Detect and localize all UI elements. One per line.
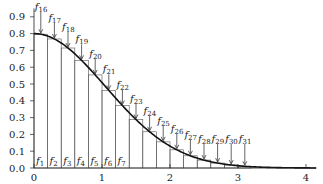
y-tick-label: 0.0 [9, 163, 25, 174]
y-tick-label: 0.2 [9, 129, 25, 140]
x-tick-label: 4 [303, 172, 309, 183]
arrow-label: f31 [238, 133, 252, 146]
x-tick-label: 1 [99, 172, 105, 183]
y-tick-label: 0.3 [9, 112, 25, 123]
arrow-label: f19 [75, 33, 89, 46]
arrow-label: f18 [61, 21, 75, 34]
y-tick-label: 0.4 [9, 95, 25, 106]
arrow-label: f29 [211, 133, 225, 146]
bar-label: f4 [76, 155, 86, 168]
arrow-label: f17 [47, 12, 61, 25]
bar [129, 120, 143, 168]
y-tick-label: 0.6 [9, 62, 25, 73]
bar-base-labels: f1f2f3f4f5f6f7 [35, 155, 126, 168]
arrow-label: f28 [197, 133, 211, 146]
y-tick-label: 0.5 [9, 79, 25, 90]
x-tick-label: 2 [167, 172, 173, 183]
curve-line [34, 34, 316, 168]
arrow-label: f27 [183, 129, 197, 142]
bar [48, 39, 62, 168]
axes: 012340.00.10.20.30.40.50.60.70.80.9 [9, 8, 316, 183]
chart-figure: f16f17f18f19f20f21f22f23f24f25f26f27f28f… [0, 0, 323, 184]
y-tick-label: 0.8 [9, 28, 25, 39]
bar-label: f1 [35, 155, 44, 168]
arrow-label: f21 [102, 63, 116, 76]
bar-label: f5 [89, 155, 98, 168]
bar-label: f6 [103, 155, 113, 168]
arrow-label: f16 [34, 1, 48, 14]
bar-label: f2 [49, 155, 58, 168]
arrow-label: f24 [143, 105, 157, 118]
bar-label: f3 [62, 155, 71, 168]
y-tick-label: 0.1 [9, 146, 25, 157]
x-tick-label: 0 [31, 172, 37, 183]
arrow-label: f23 [129, 93, 143, 106]
x-tick-label: 3 [235, 172, 241, 183]
y-tick-label: 0.9 [9, 11, 25, 22]
riemann-bars [34, 34, 252, 168]
arrow-label: f25 [156, 115, 170, 128]
bar-label: f7 [117, 155, 126, 168]
bar [143, 132, 157, 168]
bar [34, 34, 48, 168]
function-curve [34, 34, 316, 168]
bar [61, 48, 75, 168]
arrow-label: f26 [170, 123, 184, 136]
arrow-label: f30 [224, 133, 238, 146]
bar [75, 60, 89, 168]
y-tick-label: 0.7 [9, 45, 25, 56]
arrow-label: f20 [88, 48, 102, 61]
arrow-label: f22 [115, 79, 129, 92]
